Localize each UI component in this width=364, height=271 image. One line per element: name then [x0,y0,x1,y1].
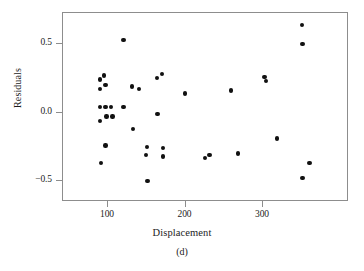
y-axis-tick [56,180,62,181]
scatter-point [102,73,106,77]
scatter-point [121,105,125,109]
scatter-point [161,146,165,150]
residual-scatter-figure: 0.50.0−0.5100200300 Residuals Displaceme… [0,0,364,271]
scatter-point [229,88,233,92]
scatter-point [183,91,187,95]
x-axis-title: Displacement [0,227,364,238]
y-axis-tick [56,112,62,113]
scatter-point [144,153,148,157]
scatter-point [160,72,164,76]
scatter-point [99,161,103,165]
scatter-point [109,105,113,109]
scatter-point [307,161,311,165]
y-axis-tick-label: 0.5 [12,38,52,48]
scatter-point [207,153,211,157]
panel-caption: (d) [0,246,364,257]
scatter-point [145,145,149,149]
scatter-point [103,105,107,109]
scatter-point [262,75,266,79]
scatter-point [300,23,304,27]
scatter-point [203,156,207,160]
scatter-point [103,143,107,147]
scatter-points-layer [63,13,347,200]
scatter-point [145,179,149,183]
scatter-point [264,79,268,83]
scatter-point [98,105,102,109]
scatter-point [137,87,141,91]
scatter-point [236,151,240,155]
y-axis-tick [56,43,62,44]
scatter-point [98,119,102,123]
x-axis-tick-label: 300 [242,209,282,219]
x-axis-tick [185,201,186,207]
scatter-point [98,87,102,91]
y-axis-title: Residuals [13,48,23,128]
scatter-point [161,154,165,158]
scatter-point [131,127,135,131]
scatter-point [300,176,304,180]
scatter-point [275,136,279,140]
plot-frame [62,12,348,201]
x-axis-tick-label: 100 [87,209,127,219]
scatter-point [104,114,108,118]
x-axis-tick [262,201,263,207]
scatter-point [300,42,304,46]
scatter-point [98,77,102,81]
scatter-point [155,76,159,80]
scatter-point [155,112,159,116]
x-axis-tick-label: 200 [165,209,205,219]
scatter-point [130,84,134,88]
x-axis-tick [107,201,108,207]
scatter-point [110,114,114,118]
scatter-point [103,83,107,87]
scatter-point [121,38,125,42]
y-axis-tick-label: −0.5 [12,175,52,185]
